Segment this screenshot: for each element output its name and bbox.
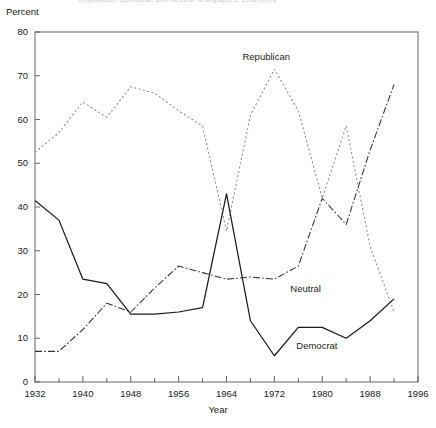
series-lines: [35, 69, 394, 356]
chart-canvas: [0, 0, 436, 428]
axis-lines: [35, 32, 418, 382]
chart-figure: Republican, Democrat, and Neutral Newspa…: [0, 0, 436, 428]
series-line-neutral: [35, 85, 394, 352]
series-line-republican: [35, 69, 394, 312]
